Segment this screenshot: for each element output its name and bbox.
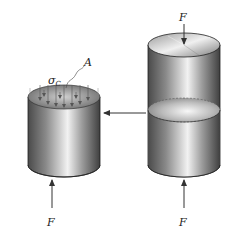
- right-cylinder: [148, 33, 220, 177]
- area-symbol: A: [83, 56, 92, 69]
- force-label-bottom-left: F: [46, 216, 55, 229]
- force-label-top: F: [178, 11, 187, 24]
- left-cylinder-section: [28, 85, 100, 177]
- area-leader-line: [66, 66, 84, 88]
- compression-diagram: F F σC: [0, 0, 234, 241]
- area-label: A: [66, 56, 92, 88]
- stress-subscript: C: [56, 80, 62, 88]
- force-label-bottom-right: F: [178, 216, 187, 229]
- force-arrow-bottom-left: F: [46, 180, 55, 229]
- stress-label: σC: [48, 74, 62, 88]
- force-arrow-bottom-right: F: [178, 180, 187, 229]
- svg-text:σC: σC: [48, 74, 62, 88]
